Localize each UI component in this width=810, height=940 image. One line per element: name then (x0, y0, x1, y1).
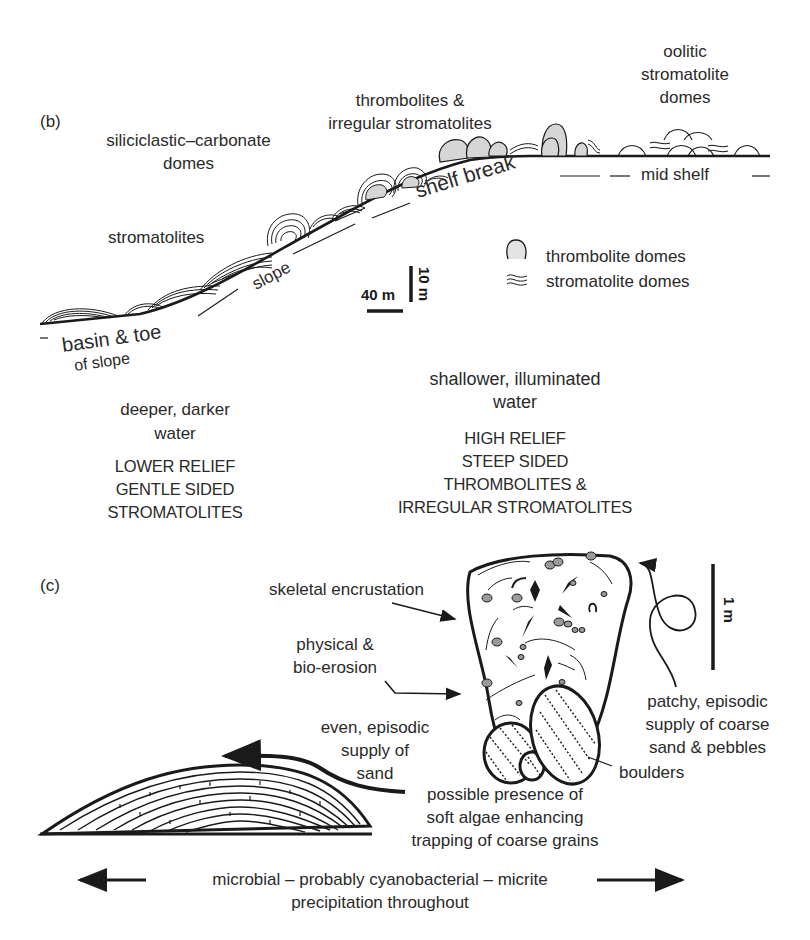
algae-label: possible presence of soft algae enhancin… (405, 783, 605, 852)
oolitic-stromatolite-domes (618, 130, 760, 157)
boulders-label: boulders (619, 761, 684, 784)
erosion-label: physical & bio-erosion (285, 633, 385, 679)
zone-thrombolites-label: thrombolites & irregular stromatolites (310, 89, 510, 135)
skeletal-encrustation-label: skeletal encrustation (269, 578, 424, 601)
thrombolite-dome-icon (507, 240, 526, 259)
erosion-arrow (385, 681, 460, 694)
zone-oolitic-label: oolitic stromatolite domes (630, 40, 740, 109)
skeletal-arrow (392, 603, 455, 619)
label-mid-shelf: mid shelf (641, 163, 709, 186)
deep-water-label: deeper, darker water (95, 398, 255, 445)
sand-supply-label: even, episodic supply of sand (310, 716, 440, 785)
coarse-supply-label: patchy, episodic supply of coarse sand &… (640, 690, 775, 759)
scale-label-1m: 1 m (721, 597, 738, 623)
label-basin-line1: basin & toe (60, 320, 162, 356)
panel-c-label: (c) (40, 574, 60, 597)
deep-character-label: LOWER RELIEF GENTLE SIDED STROMATOLITES (85, 455, 265, 524)
shallow-water-label: shallower, illuminated water (400, 368, 630, 414)
scale-label-vertical: 10 m (416, 267, 433, 301)
basin-stromatolite-domes (42, 253, 272, 323)
panel-b-label: (b) (40, 110, 61, 133)
stromatolite-wave-icon (507, 275, 527, 285)
shallow-character-label: HIGH RELIEF STEEP SIDED THROMBOLITES & I… (385, 427, 645, 519)
footer-caption: microbial – probably cyanobacterial – mi… (180, 868, 580, 914)
zone-stromatolites-label: stromatolites (108, 226, 204, 249)
scale-label-horizontal: 40 m (361, 283, 395, 306)
legend-stromatolite: stromatolite domes (546, 270, 690, 293)
coarse-supply-arrow (640, 563, 696, 687)
legend-thrombolite: thrombolite domes (546, 245, 686, 268)
zone-siliciclastic-label: siliciclastic–carbonate domes (96, 129, 281, 175)
